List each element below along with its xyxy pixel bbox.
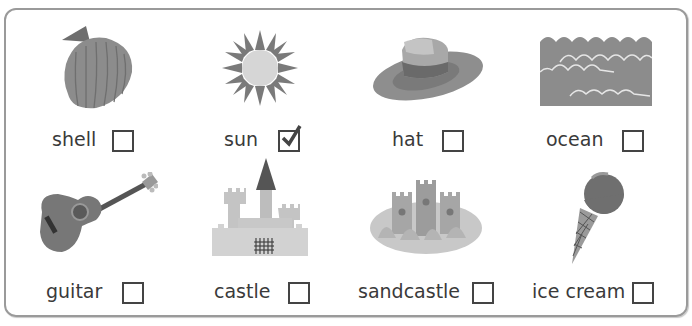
hat-icon: [368, 10, 538, 120]
item-ocean: ocean: [530, 10, 692, 160]
checkbox-hat[interactable]: [442, 130, 464, 152]
checkbox-sandcastle[interactable]: [472, 282, 494, 304]
item-guitar: guitar: [28, 162, 198, 312]
checkbox-ocean[interactable]: [622, 130, 644, 152]
item-label: sandcastle: [358, 280, 460, 302]
item-hat: hat: [368, 10, 538, 160]
item-sandcastle: sandcastle: [356, 162, 526, 312]
castle-icon: [198, 162, 368, 272]
item-label: sun: [224, 128, 258, 150]
checkbox-shell[interactable]: [112, 130, 134, 152]
checkbox-sun[interactable]: [278, 130, 300, 152]
item-label: guitar: [46, 280, 102, 302]
item-label: ocean: [546, 128, 603, 150]
item-label: castle: [214, 280, 270, 302]
item-label: ice cream: [532, 280, 625, 302]
ice-cream-icon: [522, 162, 692, 272]
item-label: hat: [392, 128, 423, 150]
item-label: shell: [52, 128, 96, 150]
checkmark-icon: [279, 124, 305, 150]
item-sun: sun: [198, 10, 368, 160]
sandcastle-icon: [356, 162, 526, 272]
shell-icon: [28, 10, 198, 120]
checkbox-guitar[interactable]: [122, 282, 144, 304]
item-castle: castle: [198, 162, 368, 312]
ocean-icon: [530, 10, 692, 120]
item-shell: shell: [28, 10, 198, 160]
checkbox-ice-cream[interactable]: [632, 282, 654, 304]
sun-icon: [198, 10, 368, 120]
item-ice-cream: ice cream: [522, 162, 692, 312]
checkbox-castle[interactable]: [288, 282, 310, 304]
guitar-icon: [28, 162, 198, 272]
